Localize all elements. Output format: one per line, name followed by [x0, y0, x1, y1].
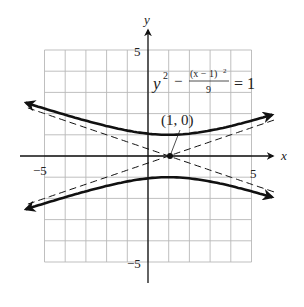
- y-axis-label: y: [142, 12, 150, 27]
- center-point: [167, 153, 173, 159]
- center-label: (1, 0): [161, 112, 194, 129]
- eq-frac-num-exp: 2: [223, 67, 227, 75]
- lower-branch-curve: [26, 177, 272, 209]
- x-tick-label-5: 5: [250, 166, 257, 181]
- eq-y-exp: 2: [163, 70, 168, 81]
- x-axis-label: x: [280, 148, 287, 163]
- eq-minus: −: [174, 73, 182, 89]
- x-tick-label-neg5: −5: [33, 163, 47, 178]
- upper-branch-curve: [26, 103, 272, 135]
- hyperbola-chart: x y −5 5 5 −5 y 2 − (x − 1) 2 9 = 1 (1, …: [0, 0, 304, 307]
- eq-y: y: [151, 74, 161, 93]
- eq-frac-den: 9: [206, 84, 211, 95]
- eq-rhs: = 1: [234, 75, 255, 92]
- y-tick-label-5: 5: [134, 44, 141, 59]
- y-tick-label-neg5: −5: [127, 256, 141, 271]
- eq-frac-num: (x − 1): [190, 68, 217, 80]
